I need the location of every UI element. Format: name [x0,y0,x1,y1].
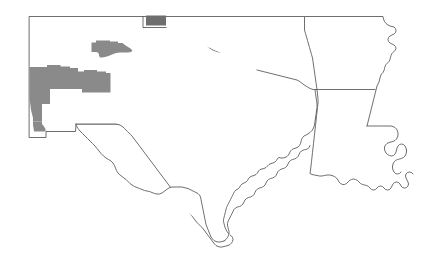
state-outlines-layer [30,17,414,248]
map-canvas [0,0,427,265]
map-svg [0,0,427,265]
highlight-oklahoma-panhandle-county [146,16,166,26]
